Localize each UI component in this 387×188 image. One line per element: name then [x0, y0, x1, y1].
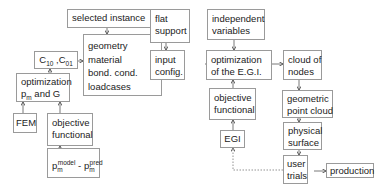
p-sub: m — [57, 166, 62, 173]
node-flat-support: flat support — [150, 9, 190, 43]
line-variables: variables — [212, 25, 260, 37]
node-production: production — [326, 163, 374, 178]
node-label: selected instance — [72, 12, 153, 24]
line-cloud-of: cloud of — [288, 54, 317, 66]
line-physical: physical — [288, 125, 317, 137]
line-support: support — [155, 25, 185, 37]
line-geometry: geometry — [88, 39, 157, 53]
line-independent: independent — [212, 13, 260, 25]
node-label: EGI — [223, 133, 242, 145]
line-optimization: optimization — [211, 54, 267, 66]
node-cloud-of-nodes: cloud of nodes — [283, 50, 322, 80]
node-geometric-point-cloud: geometric point cloud — [282, 90, 333, 118]
node-c10-c01: C10 ,C01 — [34, 51, 78, 69]
node-fem: FEM — [13, 113, 37, 133]
line-input: input — [155, 54, 180, 66]
node-label: C10 ,C01 — [39, 54, 73, 70]
node-physical-surface: physical surface — [283, 122, 322, 150]
node-pm-model-minus-pred: pmmodel - pmpred — [47, 148, 100, 178]
line-config: config. — [155, 66, 180, 78]
line-objective: objective — [52, 117, 88, 129]
line-of-the-egi: of the E.G.I. — [211, 66, 267, 78]
node-label: FEM — [16, 117, 34, 129]
node-optimization-pm-g: optimization pm and G — [16, 73, 70, 102]
node-label: pmmodel - pmpred — [52, 157, 95, 176]
and-g: and G — [32, 88, 61, 99]
line-material: material — [88, 53, 157, 67]
line-surface: surface — [288, 137, 317, 149]
line-geometric: geometric — [287, 93, 328, 105]
node-user-trials: user trials — [283, 155, 308, 184]
line-trials: trials — [287, 170, 304, 182]
pred-sup: pred — [90, 159, 103, 166]
line-functional: functional — [52, 129, 88, 141]
line-loadcases: loadcases — [88, 80, 157, 94]
minus: - — [75, 160, 83, 171]
node-optimization-egi: optimization of the E.G.I. — [206, 50, 272, 80]
line-flat: flat — [155, 13, 185, 25]
line-pm-and-g: pm and G — [21, 88, 65, 104]
node-label: production — [330, 165, 370, 177]
line-nodes: nodes — [288, 66, 317, 78]
line-objective: objective — [214, 92, 251, 104]
model-sup: model — [58, 159, 76, 166]
p-sub-2: m — [89, 166, 94, 173]
line-optimization: optimization — [21, 76, 65, 88]
node-objective-functional-left: objective functional — [47, 113, 93, 146]
node-objective-functional-mid: objective functional — [209, 88, 256, 120]
node-input-config: input config. — [150, 50, 185, 80]
node-independent-variables: independent variables — [207, 9, 265, 40]
line-bond-cond: bond. cond. — [88, 66, 157, 80]
node-selected-instance: selected instance — [67, 9, 158, 28]
node-egi: EGI — [220, 130, 245, 148]
c01-sub: 01 — [66, 60, 73, 67]
line-user: user — [287, 158, 304, 170]
line-functional: functional — [214, 104, 251, 116]
line-point-cloud: point cloud — [287, 105, 328, 117]
c01-base: C — [59, 54, 66, 65]
